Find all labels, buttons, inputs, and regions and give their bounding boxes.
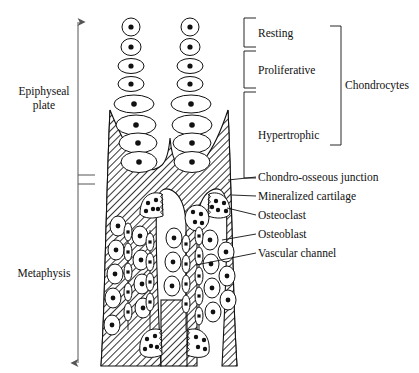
osteoclast-mid-right <box>185 205 209 231</box>
osteoblast <box>108 240 124 260</box>
chondrocyte-cell <box>121 152 157 173</box>
bracket-resting <box>244 18 256 47</box>
bracket-label-hypertrophic: Hypertrophic <box>258 129 319 142</box>
chondrocyte-cell <box>180 39 200 56</box>
chondrocyte-cell <box>173 133 211 153</box>
osteoclast-lower-right <box>187 329 209 357</box>
leader-label-osteoclast: Osteoclast <box>258 209 307 221</box>
leader-label-mineralized-cartilage: Mineralized cartilage <box>258 190 356 203</box>
growth-plate-diagram: Epiphyseal plate Metaphysis <box>0 0 419 373</box>
leader-label-vascular-channel: Vascular channel <box>258 247 336 259</box>
chondrocyte-cell <box>121 39 141 56</box>
chondrocyte-cell <box>116 115 156 135</box>
chondrocyte-cell <box>181 18 199 36</box>
osteoblast <box>104 315 120 335</box>
osteoblast <box>205 302 221 322</box>
osteoblast <box>164 276 180 296</box>
osteoblast <box>219 266 235 286</box>
chondrocyte-cell <box>122 18 140 36</box>
chondrocyte-cell <box>119 133 157 153</box>
zone-label-epiphyseal-line1: Epiphyseal <box>18 85 69 98</box>
osteoblast <box>220 290 236 310</box>
bracket-chondrocytes <box>330 26 341 145</box>
chondrocyte-cell <box>174 152 210 173</box>
chondrocyte-cell <box>118 59 144 74</box>
chondrocyte-column-right <box>171 18 212 173</box>
bracket-label-resting: Resting <box>258 27 293 40</box>
bracket-hypertrophic <box>244 92 256 178</box>
figure-canvas: Epiphyseal plate Metaphysis <box>0 0 419 373</box>
bracket-label-proliferative: Proliferative <box>258 64 315 76</box>
osteoblast <box>107 264 123 284</box>
osteoblast <box>204 278 220 298</box>
osteoblast <box>105 288 121 308</box>
chondrocyte-cell <box>171 95 211 113</box>
bracket-label-chondrocytes: Chondrocytes <box>345 79 409 92</box>
left-span-axis <box>78 22 95 363</box>
leader-label-chondro-osseous-junction: Chondro-osseous junction <box>258 171 379 184</box>
zone-label-epiphyseal-line2: plate <box>33 99 55 112</box>
vascular-channel-right <box>195 227 203 330</box>
chondrocyte-cell <box>118 77 144 92</box>
zone-label-metaphysis: Metaphysis <box>17 267 71 280</box>
chondrocyte-cell <box>172 115 212 135</box>
osteoblast <box>166 228 182 248</box>
osteoblast <box>165 252 181 272</box>
chondrocyte-cell <box>177 59 203 74</box>
chondrocyte-cell <box>114 95 154 113</box>
vascular-channel-left <box>124 223 132 330</box>
leader-label-osteoblast: Osteoblast <box>258 228 307 240</box>
bracket-proliferative <box>244 51 256 88</box>
osteoblast <box>203 254 219 274</box>
osteoblast <box>202 230 218 250</box>
chondrocyte-cell <box>177 77 203 92</box>
